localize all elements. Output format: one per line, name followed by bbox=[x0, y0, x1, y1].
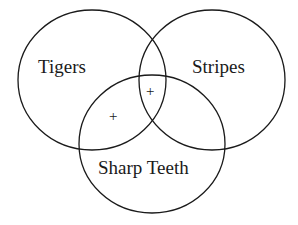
tigers-circle bbox=[18, 10, 166, 150]
sharp-teeth-label: Sharp Teeth bbox=[98, 157, 189, 178]
triple-intersection-mark: + bbox=[146, 83, 154, 99]
tigers-teeth-intersection-mark: + bbox=[109, 108, 117, 124]
tigers-label: Tigers bbox=[38, 56, 86, 77]
venn-diagram: Tigers Stripes Sharp Teeth + + bbox=[0, 0, 298, 225]
stripes-circle bbox=[139, 10, 285, 150]
stripes-label: Stripes bbox=[192, 56, 245, 77]
